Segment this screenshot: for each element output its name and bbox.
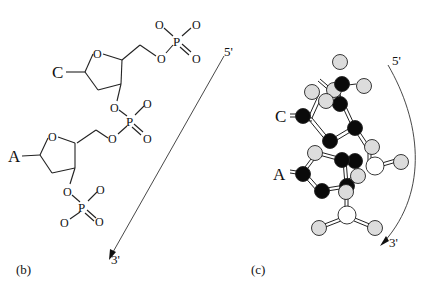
three-prime-label-b: 3' xyxy=(111,252,120,267)
bridge-phosphate-p: P xyxy=(126,114,133,129)
bottom-phosphate-o1: O xyxy=(63,185,72,199)
top-phosphate-group: O O P O O xyxy=(155,18,201,66)
panel-b-structure: O O P O O O C xyxy=(8,18,233,277)
bottom-phosphate-o2: O xyxy=(96,183,105,197)
base-c-label: C xyxy=(52,63,63,82)
panel-b-label: (b) xyxy=(16,262,31,277)
bottom-phosphate-o4: O xyxy=(95,215,104,229)
bridge-phosphate-o4: O xyxy=(143,132,152,146)
base-c-label-3d: C xyxy=(275,107,286,126)
dna-backbone-figure: O O P O O O C xyxy=(0,0,433,291)
bridge-phosphate-o2: O xyxy=(143,97,152,111)
top-phosphate-p: P xyxy=(173,34,180,49)
base-a-label-3d: A xyxy=(273,165,286,184)
sugar-ring-a: O A xyxy=(8,130,108,184)
top-phosphate-o1: O xyxy=(155,18,164,32)
ring-oxygen-c: O xyxy=(93,47,102,61)
ring-oxygen-a: O xyxy=(48,130,57,144)
direction-arrow-b: 5' 3' xyxy=(109,44,233,267)
five-prime-label-b: 5' xyxy=(224,44,233,59)
five-prime-label-c: 5' xyxy=(392,53,401,68)
bridge-phosphate-group: O O P O O xyxy=(108,97,152,146)
direction-arrow-c: 5' 3' xyxy=(380,53,415,250)
sugar-ring-c: O C xyxy=(52,45,156,101)
bottom-phosphate-group: O O P O O xyxy=(60,183,105,230)
base-a-label: A xyxy=(8,147,21,166)
top-phosphate-o3: O xyxy=(157,52,166,66)
bridge-phosphate-o3: O xyxy=(108,132,117,146)
panel-c-ball-and-stick: C A 5' 3' (c) xyxy=(251,53,415,277)
panel-c-label: (c) xyxy=(251,262,265,277)
top-phosphate-o2: O xyxy=(192,18,201,32)
atom-light xyxy=(333,55,348,70)
bottom-phosphate-o3: O xyxy=(60,216,69,230)
top-phosphate-o4: O xyxy=(192,52,201,66)
bridge-phosphate-o1: O xyxy=(110,101,119,115)
three-prime-label-c: 3' xyxy=(389,235,398,250)
